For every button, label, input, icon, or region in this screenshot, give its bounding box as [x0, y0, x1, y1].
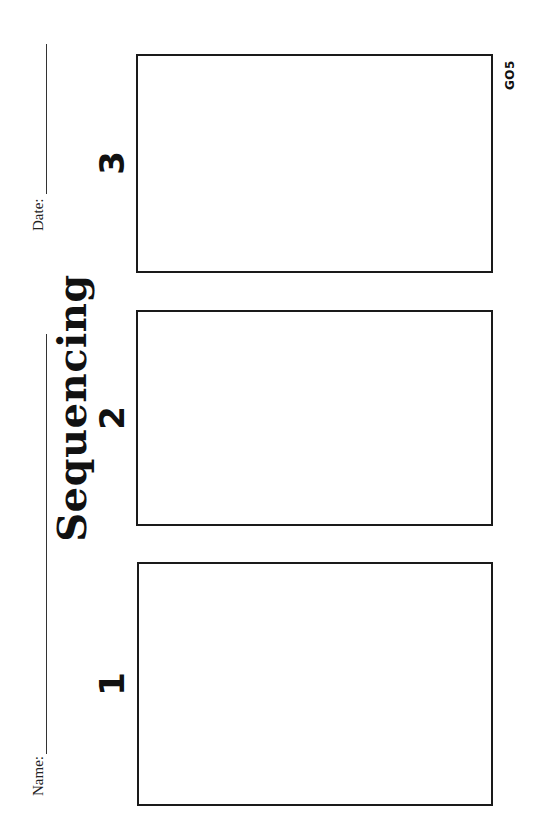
name-line[interactable]: [46, 334, 47, 754]
box-number-2: 2: [92, 398, 132, 438]
name-label: Name:: [30, 756, 47, 796]
sequence-box-2[interactable]: [136, 310, 493, 526]
box-number-1: 1: [92, 664, 132, 704]
date-label: Date:: [30, 199, 47, 231]
worksheet-title: Sequencing: [48, 0, 95, 816]
sequence-box-3[interactable]: [136, 54, 493, 273]
sequence-box-1[interactable]: [137, 562, 493, 806]
date-line[interactable]: [46, 44, 47, 194]
box-number-3: 3: [92, 143, 132, 183]
worksheet-page: Name: Date: Sequencing 1 2 3 GO5: [0, 0, 541, 816]
worksheet-code: GO5: [503, 60, 517, 90]
